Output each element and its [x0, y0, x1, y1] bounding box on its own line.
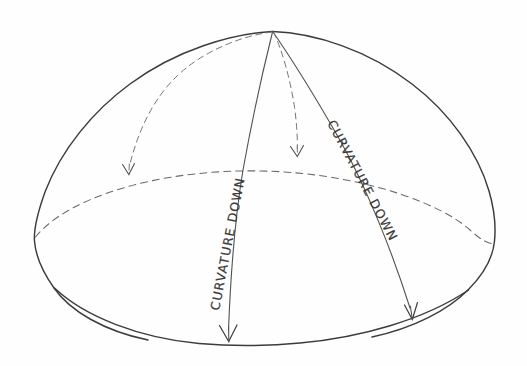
dome-diagram-svg: CURVATURE DOWN CURVATURE DOWN: [0, 0, 527, 366]
left-curvature-down-label: CURVATURE DOWN: [207, 176, 248, 312]
meridian-right-group: [273, 32, 418, 320]
dashed-arc-middle-group: [274, 32, 304, 157]
dome-outline-group: [34, 32, 495, 346]
dome-diagram-canvas: CURVATURE DOWN CURVATURE DOWN: [0, 0, 527, 366]
left-curvature-label-group: CURVATURE DOWN: [207, 176, 248, 312]
dome-outline-right-arc: [273, 32, 495, 338]
dashed-arc-left-curve: [130, 32, 273, 166]
equator-dashed-ellipse-group: [36, 171, 495, 244]
dashed-arc-left-arrowhead: [123, 164, 135, 175]
dashed-arc-left-group: [123, 32, 273, 175]
dashed-arc-middle-curve: [274, 32, 298, 148]
right-curvature-label-group: CURVATURE DOWN: [324, 117, 401, 243]
meridian-right-curve: [273, 32, 410, 308]
equator-dashed-back: [36, 171, 495, 244]
right-curvature-down-label: CURVATURE DOWN: [324, 117, 401, 243]
